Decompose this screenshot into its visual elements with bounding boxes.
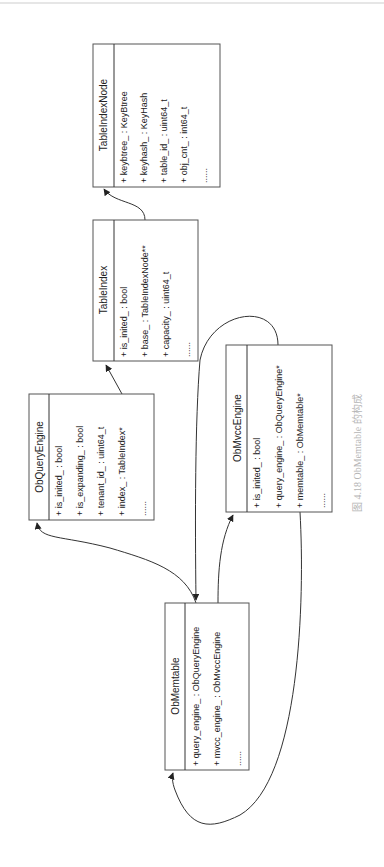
class-obmvccengine: ObMvccEngine + is_inited_ : bool + query… [226, 345, 332, 512]
class-obmemtable: ObMemtable + query_engine_ : ObQueryEngi… [165, 603, 249, 770]
figure-caption: 图 4.18 ObMemtable 的构成 [351, 394, 363, 512]
class-attribute: + is_inited_ : bool [119, 287, 129, 357]
class-attribute: + obj_cnt_ : int64_t [179, 106, 189, 183]
class-attribute: + capacity_ : uint64_t [161, 271, 171, 357]
class-attribute: + query_engine_ : ObQueryEngine [191, 627, 201, 766]
class-attribute: + memtable_ : ObMemtable* [295, 393, 305, 508]
uml-diagram: TableIndexNode + keybtree_ : KeyBtree + … [0, 0, 384, 867]
class-obqueryengine: ObQueryEngine + is_inited_ : bool + is_e… [29, 394, 154, 520]
class-title: ObMvccEngine [232, 394, 243, 462]
class-attribute: ...... [199, 168, 209, 183]
class-title: ObQueryEngine [34, 421, 45, 493]
class-title: TableIndexNode [98, 78, 109, 151]
class-attribute: + tenant_id_ : uint64_t [96, 426, 106, 516]
class-attribute: + index_ : TableIndex* [117, 427, 127, 516]
class-attribute: ...... [317, 493, 327, 508]
class-attribute: + is_inited_ : bool [54, 446, 64, 516]
class-title: ObMemtable [170, 657, 181, 715]
class-attribute: + is_inited_ : bool [252, 438, 262, 508]
class-attribute: ...... [233, 751, 243, 766]
class-tableindexnode: TableIndexNode + keybtree_ : KeyBtree + … [93, 44, 220, 187]
class-attribute: + base_ : TableIndexNode** [140, 245, 150, 357]
class-attribute: + query_engine_ : ObQueryEngine* [274, 365, 284, 508]
class-tableindex: TableIndex + is_inited_ : bool + base_ :… [93, 220, 198, 361]
class-attribute: + table_id_ : uint64_t [159, 99, 169, 183]
class-attribute: ...... [182, 342, 192, 357]
class-attribute: + mvcc_engine_ : ObMvccEngine [212, 632, 222, 766]
edge-obmemtable-to-obmvccengine [218, 515, 233, 603]
class-attribute: + keyhash_ : KeyHash [139, 93, 149, 183]
class-attribute: + is_expanding_ : bool [75, 426, 85, 516]
edge-tableindex-to-tableindexnode [104, 189, 145, 220]
class-title: TableIndex [98, 266, 109, 314]
class-attribute: + keybtree_ : KeyBtree [119, 91, 129, 183]
class-attribute: ...... [138, 501, 148, 516]
edge-obqueryengine-to-tableindex [106, 365, 122, 394]
edge-obmemtable-to-obqueryengine [37, 523, 196, 603]
